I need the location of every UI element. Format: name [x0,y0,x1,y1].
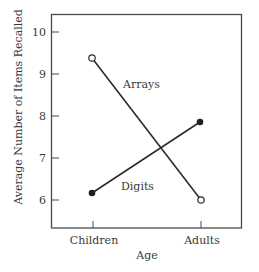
series-digits: Digits [89,119,204,197]
y-axis-ticks [52,32,60,200]
y-tick-label: 6 [39,194,46,207]
x-category-adults: Adults [183,234,220,247]
y-tick-label: 8 [39,110,46,123]
digits-point-children [89,190,96,197]
arrays-point-adults [198,197,204,203]
y-axis-title: Average Number of Items Recalled [12,9,25,206]
plot-frame [52,15,242,229]
arrays-label: Arrays [122,78,160,91]
y-tick-label: 7 [39,152,46,165]
x-category-children: Children [70,234,118,247]
x-axis-title: Age [135,249,158,262]
arrays-point-children [89,55,95,61]
y-tick-label: 10 [32,26,46,39]
digits-point-adults [197,119,204,126]
chart: 10 9 8 7 6 Children Adults Age Average N… [0,0,259,272]
x-axis-ticks [93,221,201,228]
digits-label: Digits [121,180,154,193]
y-axis-tick-labels: 10 9 8 7 6 [32,26,46,207]
y-tick-label: 9 [39,68,46,81]
